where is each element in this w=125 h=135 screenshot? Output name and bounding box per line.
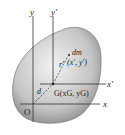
r-prime-label: r′ xyxy=(59,60,64,69)
diagram-canvas: y y′ x x′ O G(xG, yG) dm (x′, y′) r′ d xyxy=(0,0,125,135)
y-prime-axis-label: y′ xyxy=(50,7,58,17)
mass-element-point xyxy=(68,54,70,56)
mass-element-label: dm xyxy=(72,48,82,57)
mass-coords-label: (x′, y′) xyxy=(67,58,87,67)
x-axis-label: x xyxy=(102,99,107,109)
origin-label: O xyxy=(24,107,31,117)
centroid-point xyxy=(52,83,54,85)
y-axis-label: y xyxy=(29,7,34,17)
centroid-label: G(xG, yG) xyxy=(54,89,89,98)
x-prime-axis-label: x′ xyxy=(106,79,114,89)
rigid-body-diagram: y y′ x x′ O G(xG, yG) dm (x′, y′) r′ d xyxy=(0,0,125,135)
